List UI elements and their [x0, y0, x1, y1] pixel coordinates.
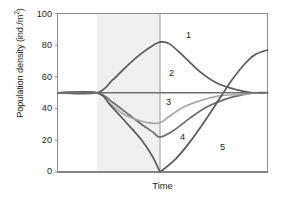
- curve-label-5: 5: [220, 142, 225, 152]
- data-curves: [58, 42, 268, 172]
- curve-label-2: 2: [169, 68, 174, 78]
- curve-label-3: 3: [166, 97, 171, 107]
- plot-canvas: [0, 0, 281, 199]
- curve-label-1: 1: [186, 30, 191, 40]
- population-density-chart: Population density (ind./m2) 100 80 60 4…: [0, 0, 281, 199]
- curve-1: [58, 42, 268, 94]
- curve-2: [58, 92, 268, 137]
- curve-label-4: 4: [180, 132, 185, 142]
- x-axis-label: Time: [57, 180, 268, 191]
